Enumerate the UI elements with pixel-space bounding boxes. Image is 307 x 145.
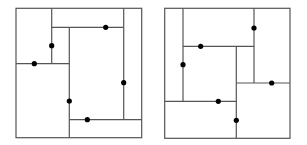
segment-dot [121, 80, 126, 85]
segment-dot [198, 44, 203, 49]
left-floorplan [16, 8, 142, 137]
segment-dot [234, 118, 239, 123]
segment-dot [85, 117, 90, 122]
segment-dot [269, 80, 274, 85]
segment-dot [67, 98, 72, 103]
segment-dot [103, 25, 108, 30]
segment-dot [32, 61, 37, 66]
segment-dot [180, 62, 185, 67]
segment-dot [216, 99, 221, 104]
floorplan-diagrams [0, 0, 307, 145]
right-floorplan [165, 8, 290, 138]
segment-dot [251, 25, 256, 30]
segment-dot [49, 43, 54, 48]
